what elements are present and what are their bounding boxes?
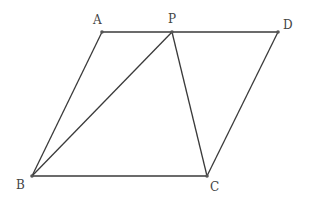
label-B: B bbox=[16, 178, 25, 192]
point-A bbox=[100, 30, 104, 34]
label-D: D bbox=[283, 18, 293, 32]
segment-PC bbox=[172, 32, 207, 176]
point-P bbox=[170, 30, 174, 34]
label-C: C bbox=[210, 180, 219, 194]
point-D bbox=[276, 30, 280, 34]
segment-PB bbox=[32, 32, 172, 176]
segment-AB bbox=[32, 32, 102, 176]
point-B bbox=[30, 174, 34, 178]
label-P: P bbox=[168, 12, 176, 26]
label-A: A bbox=[92, 13, 102, 27]
segment-CD bbox=[207, 32, 278, 176]
geometry-diagram: A P D B C bbox=[0, 0, 310, 203]
point-C bbox=[205, 174, 209, 178]
